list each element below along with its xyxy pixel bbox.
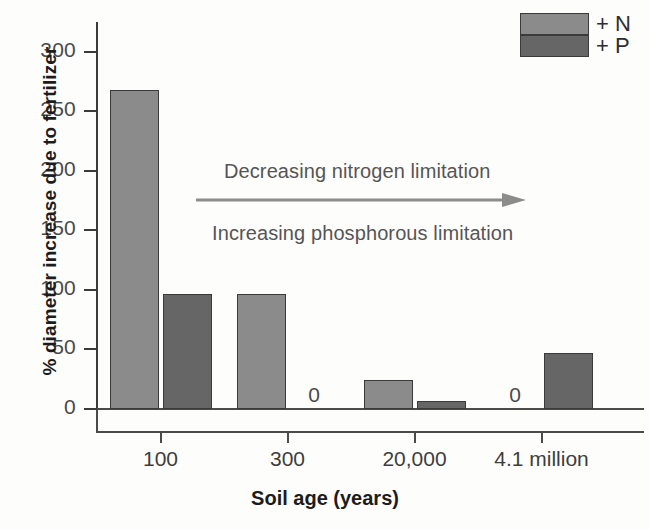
x-tick-label: 4.1 million (494, 447, 589, 471)
bar-+p-20000 (417, 401, 466, 409)
x-tick-label: 20,000 (382, 447, 446, 471)
x-tick-mark (541, 431, 543, 443)
x-tick-mark (287, 431, 289, 443)
legend-label-n: + N (596, 13, 631, 35)
y-axis-title: % diameter increase due to fertilizer (39, 11, 61, 411)
legend-item-n: + N (520, 13, 631, 35)
x-tick-label: 300 (270, 447, 305, 471)
bar-+n-100 (110, 90, 159, 409)
x-tick-mark (160, 431, 162, 443)
y-tick-mark (84, 170, 97, 172)
y-tick-mark (84, 408, 97, 410)
x-axis-left-cap (96, 408, 98, 433)
x-tick-mark (414, 431, 416, 443)
plot-area: 00 (97, 40, 605, 409)
bar-+n-20000 (364, 380, 413, 409)
bar-+n-300 (237, 294, 286, 409)
bar-+p-100 (163, 294, 212, 409)
zero-value-label: 0 (308, 383, 320, 407)
x-axis-spine (96, 431, 644, 433)
zero-value-label: 0 (509, 383, 521, 407)
y-tick-mark (84, 289, 97, 291)
x-axis-title: Soil age (years) (0, 487, 650, 510)
x-tick-label: 100 (143, 447, 178, 471)
legend-swatch-n (520, 13, 589, 35)
y-tick-mark (84, 229, 97, 231)
y-tick-mark (84, 110, 97, 112)
y-tick-mark (84, 348, 97, 350)
bar-chart-figure: + N + P Decreasing nitrogen limitation I… (0, 0, 650, 529)
y-tick-mark (84, 51, 97, 53)
bar-+p-41million (544, 353, 593, 409)
